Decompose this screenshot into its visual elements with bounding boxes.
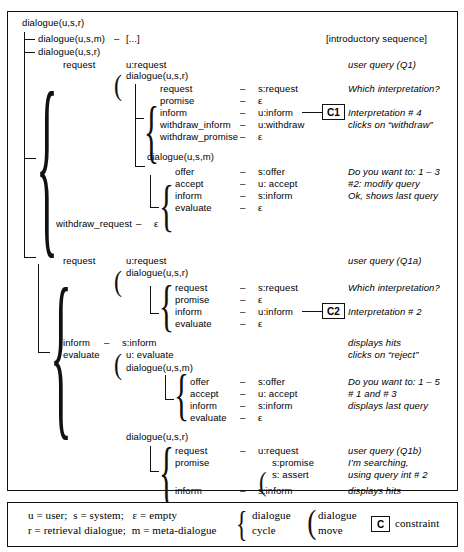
- dialogue-cycle-brace-inner-3: {: [159, 278, 174, 335]
- node-value-r28: ε: [258, 413, 262, 423]
- root-corner-foot: [24, 257, 36, 258]
- node-value-r6: ε: [258, 96, 262, 106]
- node-note-r1: [introductory sequence]: [326, 34, 427, 44]
- legend-constraint-box: C: [371, 516, 390, 532]
- node-value-r30: u:request: [258, 446, 299, 456]
- dialogue-move-paren-q1: (: [114, 70, 122, 100]
- legend-cycle-line-2: cycle: [252, 525, 276, 535]
- inner-spine-2: [150, 175, 151, 208]
- dialogue-move-paren-q1a: (: [114, 266, 122, 296]
- root-spine: [24, 32, 25, 258]
- node-dash-r26: –: [240, 389, 245, 399]
- node-dash-r21: –: [240, 319, 245, 329]
- constraint-box-c1[interactable]: C1: [322, 104, 345, 120]
- node-value-r32: s: assert: [272, 470, 309, 480]
- dialogue-move-paren-evaluate: (: [114, 349, 122, 379]
- node-label-r21: evaluate: [175, 319, 212, 329]
- node-label-r8: withdraw_inform: [160, 120, 231, 130]
- legend-panel: u = user; s = system; ε = empty r = retr…: [7, 502, 458, 547]
- node-value-r1: [...]: [126, 34, 140, 44]
- node-label-r3: request: [63, 60, 95, 70]
- node-dash-r33: –: [240, 486, 245, 496]
- node-label-r28: evaluate: [190, 413, 227, 423]
- inner-corner-3: [150, 313, 159, 314]
- node-label-r2: dialogue(u,s,r): [38, 47, 100, 57]
- node-dash-r25: –: [240, 377, 245, 387]
- root-tick-2: [24, 52, 35, 53]
- legend-line-1: u = user; s = system; ε = empty: [28, 510, 177, 520]
- dialogue-cycle-brace-inner-4: {: [174, 367, 189, 424]
- node-label-r7: inform: [160, 108, 187, 118]
- node-label-r12: accept: [175, 179, 204, 189]
- node-label-r22: inform: [63, 338, 90, 348]
- node-label-r6: promise: [160, 96, 195, 106]
- node-value-r26: u: accept: [258, 389, 297, 399]
- constraint-connector-c1: [302, 112, 322, 113]
- node-note-r23: clicks on “reject”: [348, 350, 418, 360]
- node-label-r5: request: [160, 84, 192, 94]
- node-label-r13: inform: [175, 191, 202, 201]
- node-note-r8: clicks on “withdraw”: [348, 120, 433, 130]
- node-value-r4: dialogue(u,s,r): [126, 71, 188, 81]
- constraint-box-c2[interactable]: C2: [322, 303, 345, 319]
- node-label-r11: offer: [175, 167, 194, 177]
- inner-corner-5: [150, 471, 159, 472]
- node-note-r30: user query (Q1b): [348, 446, 421, 456]
- inner-spine-1: [135, 84, 136, 167]
- inner-spine-3: [150, 286, 151, 314]
- legend-cycle-line-1: dialogue: [252, 510, 291, 520]
- inner-spine-5: [150, 446, 151, 472]
- root-tick-1: [24, 39, 35, 40]
- node-dash-r30: –: [240, 446, 245, 456]
- node-note-r3: user query (Q1): [348, 60, 416, 70]
- level2-corner-foot: [38, 352, 50, 353]
- node-dash-r22: –: [104, 338, 109, 348]
- node-value-r18: s:request: [258, 283, 298, 293]
- node-dash-r12: –: [240, 179, 245, 189]
- node-note-r20: Interpretation # 2: [348, 307, 422, 317]
- node-label-r14: evaluate: [175, 203, 212, 213]
- node-note-r27: displays last query: [348, 401, 428, 411]
- node-label-r33: inform: [175, 486, 202, 496]
- node-value-r12: u: accept: [258, 179, 297, 189]
- node-dash-r11: –: [240, 167, 245, 177]
- node-note-r13: Ok, shows last query: [348, 191, 438, 201]
- node-value-r20: u:inform: [258, 307, 293, 317]
- node-dash-r18: –: [240, 283, 245, 293]
- node-note-r18: Which interpretation?: [348, 283, 440, 293]
- node-note-r25: Do you want to: 1 – 5: [348, 377, 440, 387]
- node-label-r20: inform: [175, 307, 202, 317]
- node-value-r7: u:inform: [258, 108, 293, 118]
- dialogue-cycle-brace-inner-5: {: [159, 438, 174, 507]
- level2-spine: [38, 264, 39, 353]
- node-label-r30: request: [175, 446, 207, 456]
- node-note-r32: using query int # 2: [348, 470, 428, 480]
- node-dash-r27: –: [240, 401, 245, 411]
- diagram-root: { { ( ( ( ( { { { { { dialogue(u,s,r) di…: [0, 0, 464, 552]
- constraint-connector-c2: [302, 311, 322, 312]
- node-dash-r13: –: [240, 191, 245, 201]
- node-value-r24: dialogue(u,s,m): [126, 363, 193, 373]
- node-dash-r6: –: [240, 96, 245, 106]
- node-label-r29: dialogue(u,s,r): [126, 432, 188, 442]
- node-value-r25: s:offer: [258, 377, 285, 387]
- node-dash-r8: –: [240, 120, 245, 130]
- node-label-r10: dialogue(u,s,m): [147, 152, 214, 162]
- node-value-r5: s:request: [258, 84, 298, 94]
- legend-move-line-2: move: [318, 525, 343, 535]
- inner-spine-4: [165, 375, 166, 400]
- dialogue-cycle-brace-inner-2: {: [159, 178, 174, 235]
- legend-line-2: r = retrieval dialogue; m = meta-dialogu…: [28, 525, 217, 535]
- node-dash-r5: –: [240, 84, 245, 94]
- node-value-r33: s:inform: [258, 486, 293, 496]
- node-value-r17: dialogue(u,s,r): [126, 268, 188, 278]
- node-note-r12: #2: modify query: [348, 179, 420, 189]
- inner-tick-1: [135, 118, 144, 119]
- node-value-r3: u:request: [126, 60, 167, 70]
- node-note-r33: displays hits: [348, 486, 401, 496]
- node-label-r31: promise: [175, 458, 210, 468]
- dialogue-tree-panel: { { ( ( ( ( { { { { { dialogue(u,s,r) di…: [7, 11, 458, 491]
- node-dash-r20: –: [240, 307, 245, 317]
- node-note-r26: # 1 and # 3: [348, 389, 397, 399]
- node-value-r8: u:withdraw: [258, 120, 304, 130]
